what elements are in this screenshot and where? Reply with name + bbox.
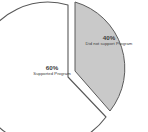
pie-chart-canvas: [0, 0, 148, 132]
pie-chart: 60% Supported Program 40% Did not suppor…: [0, 0, 148, 132]
